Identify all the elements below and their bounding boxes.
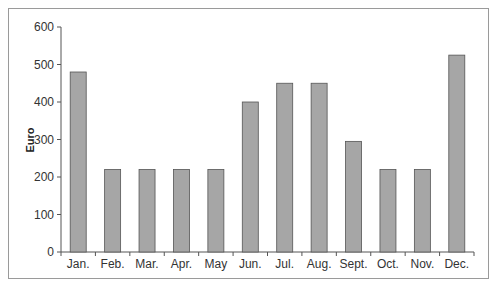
bars bbox=[70, 55, 465, 252]
x-tick-label: Mar. bbox=[135, 257, 158, 271]
bar-dec bbox=[449, 55, 465, 252]
y-tick-label: 0 bbox=[47, 245, 54, 259]
bar-oct bbox=[380, 170, 396, 253]
x-tick-label: Jan. bbox=[67, 257, 90, 271]
bar-jan bbox=[70, 72, 86, 252]
x-tick-label: Feb. bbox=[101, 257, 125, 271]
x-tick-label: Nov. bbox=[410, 257, 434, 271]
x-tick-label: Aug. bbox=[307, 257, 332, 271]
x-tick-label: Sept. bbox=[340, 257, 368, 271]
bar-apr bbox=[173, 170, 189, 253]
y-axis-label: Euro bbox=[24, 127, 36, 152]
bar-sept bbox=[346, 141, 362, 252]
x-tick-label: Apr. bbox=[171, 257, 192, 271]
bar-jun bbox=[242, 102, 258, 252]
x-tick-label: May bbox=[205, 257, 228, 271]
bar-mar bbox=[139, 170, 155, 253]
y-axis: 0100200300400500600 bbox=[34, 20, 61, 259]
bar-feb bbox=[105, 170, 121, 253]
bar-jul bbox=[277, 83, 293, 252]
y-tick-label: 300 bbox=[34, 133, 54, 147]
bar-may bbox=[208, 170, 224, 253]
y-tick-label: 500 bbox=[34, 58, 54, 72]
y-tick-label: 100 bbox=[34, 208, 54, 222]
x-tick-label: Jul. bbox=[275, 257, 294, 271]
x-axis: Jan.Feb.Mar.Apr.MayJun.Jul.Aug.Sept.Oct.… bbox=[61, 252, 474, 271]
y-tick-label: 200 bbox=[34, 170, 54, 184]
bar-chart: 0100200300400500600 Jan.Feb.Mar.Apr.MayJ… bbox=[0, 0, 495, 287]
y-tick-label: 600 bbox=[34, 20, 54, 34]
y-tick-label: 400 bbox=[34, 95, 54, 109]
bar-nov bbox=[414, 170, 430, 253]
bar-aug bbox=[311, 83, 327, 252]
x-tick-label: Oct. bbox=[377, 257, 399, 271]
x-tick-label: Jun. bbox=[239, 257, 262, 271]
x-tick-label: Dec. bbox=[444, 257, 469, 271]
